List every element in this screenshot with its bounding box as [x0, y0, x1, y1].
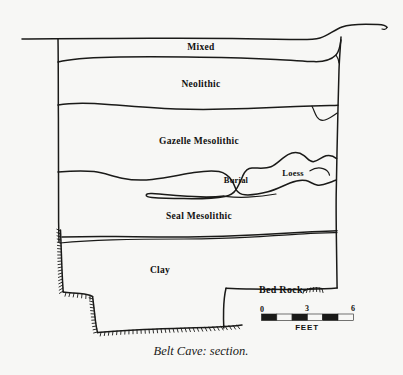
scale-tick-3: 3	[305, 304, 309, 313]
layer-label-neolithic: Neolithic	[181, 79, 220, 89]
left-section-wall	[58, 39, 59, 242]
scale-segment-3	[292, 314, 307, 321]
scale-tick-6: 6	[351, 304, 355, 313]
scale-segment-5	[323, 314, 338, 321]
section-drawing: Mixed Neolithic Gazelle Mesolithic Seal …	[0, 0, 403, 375]
layer-label-clay: Clay	[150, 265, 170, 275]
feature-label-loess: Loess	[282, 168, 304, 178]
scale-segment-6	[338, 314, 353, 321]
bedrock-label: Bed Rock	[259, 284, 303, 295]
layer-label-seal-mesolithic: Seal Mesolithic	[166, 211, 232, 221]
belt-cave-section-figure: Mixed Neolithic Gazelle Mesolithic Seal …	[0, 0, 403, 375]
scale-segment-2	[277, 314, 292, 321]
figure-caption: Belt Cave: section.	[154, 344, 249, 358]
feature-label-burial: Burial	[224, 175, 249, 185]
scale-segment-4	[307, 314, 322, 321]
layer-label-gazelle-mesolithic: Gazelle Mesolithic	[159, 136, 239, 146]
layer-label-mixed: Mixed	[187, 42, 215, 52]
scale-segment-1	[262, 314, 277, 321]
scale-unit-label: FEET	[295, 323, 319, 332]
scale-tick-0: 0	[260, 305, 264, 314]
